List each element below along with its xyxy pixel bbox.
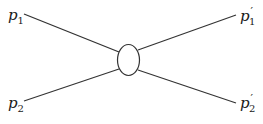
- label-p2-prime: p′2: [240, 96, 255, 111]
- incoming-line-p2: [24, 69, 119, 101]
- label-p2: p2: [8, 96, 24, 111]
- interaction-vertex-blob: [118, 45, 140, 76]
- outgoing-line-p2-prime: [138, 70, 236, 103]
- label-p2-sub: 2: [18, 103, 24, 114]
- label-p1-base: p: [8, 6, 18, 24]
- outgoing-line-p1-prime: [138, 15, 236, 50]
- incoming-line-p1: [24, 14, 119, 52]
- label-p1: p1: [8, 8, 24, 23]
- label-p2-prime-sub: 2: [249, 103, 255, 114]
- scattering-diagram: [0, 0, 263, 124]
- label-p1-sub: 1: [18, 15, 24, 26]
- label-p1-prime-sub: 1: [249, 16, 255, 27]
- label-p1-prime: p′1: [240, 9, 255, 24]
- label-p2-base: p: [8, 94, 18, 112]
